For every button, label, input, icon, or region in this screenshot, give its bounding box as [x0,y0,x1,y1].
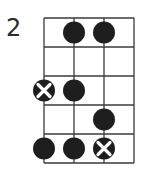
x-dot-icon [33,80,55,102]
fret-diagram [0,0,147,173]
x-dot-icon [93,138,115,160]
finger-dot-icon [63,138,85,160]
finger-dot-icon [93,22,115,44]
finger-dot-icon [63,22,85,44]
finger-dot-icon [63,80,85,102]
finger-dot-icon [93,109,115,131]
finger-dot-icon [33,138,55,160]
